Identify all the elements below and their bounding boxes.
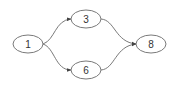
node-3: 3 xyxy=(71,10,101,28)
node-6-label: 6 xyxy=(83,65,89,76)
node-6: 6 xyxy=(71,61,101,79)
edge-6-to-8 xyxy=(101,44,136,70)
node-8: 8 xyxy=(136,35,166,53)
node-1-label: 1 xyxy=(25,39,31,50)
node-1: 1 xyxy=(13,35,43,53)
node-3-label: 3 xyxy=(83,14,89,25)
edge-3-to-8 xyxy=(101,19,136,44)
node-8-label: 8 xyxy=(148,39,154,50)
edge-1-to-6 xyxy=(43,44,71,70)
edge-1-to-3 xyxy=(43,19,71,44)
graph-diagram: 1 3 6 8 xyxy=(0,0,175,86)
